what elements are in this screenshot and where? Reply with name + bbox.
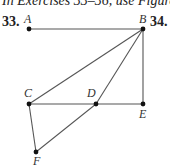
label-d: D	[87, 86, 96, 101]
segment-df	[36, 104, 96, 152]
label-f: F	[33, 154, 40, 166]
point-c	[27, 102, 32, 107]
point-b	[141, 27, 146, 32]
label-b: B	[139, 12, 146, 27]
label-c: C	[24, 86, 32, 101]
point-a	[27, 27, 32, 32]
label-a: A	[24, 12, 31, 27]
point-d	[94, 102, 99, 107]
label-e: E	[139, 107, 146, 122]
segment-bc	[29, 29, 143, 104]
segment-cf	[29, 104, 36, 152]
point-e	[141, 102, 146, 107]
segment-bd	[96, 29, 143, 104]
